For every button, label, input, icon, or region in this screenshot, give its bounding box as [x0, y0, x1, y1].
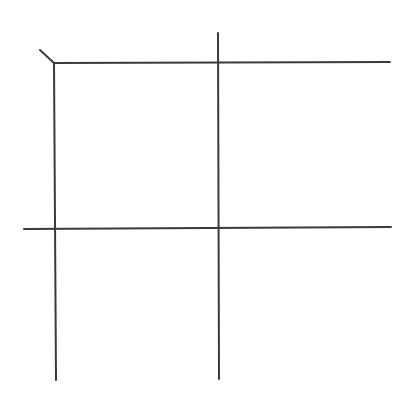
left-vertical-line [54, 63, 56, 380]
grid-diagram [0, 0, 412, 407]
center-vertical-line [218, 33, 219, 379]
top-horizontal-line [54, 62, 390, 63]
middle-horizontal-line [24, 227, 391, 229]
corner-diagonal-stroke [40, 50, 54, 63]
